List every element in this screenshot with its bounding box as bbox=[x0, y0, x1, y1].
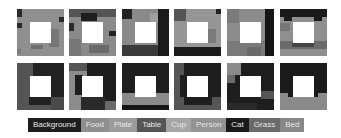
masked-center-square bbox=[187, 22, 208, 43]
mask-tile bbox=[227, 9, 274, 56]
mask-tile bbox=[174, 63, 221, 110]
mask-region bbox=[51, 77, 64, 97]
mask-region bbox=[122, 9, 132, 19]
mask-region bbox=[109, 31, 116, 36]
mask-region bbox=[51, 97, 64, 110]
mask-region bbox=[292, 43, 314, 47]
legend-item-cup: Cup bbox=[166, 118, 191, 132]
masked-center-square bbox=[135, 76, 156, 97]
mask-region bbox=[105, 101, 116, 110]
mask-region bbox=[184, 97, 212, 105]
mask-tile bbox=[69, 9, 116, 56]
mask-tile bbox=[280, 63, 327, 110]
legend-item-plate: Plate bbox=[109, 118, 137, 132]
mask-region bbox=[17, 49, 21, 54]
mask-region bbox=[69, 23, 74, 31]
mask-region bbox=[89, 45, 109, 53]
masked-center-square bbox=[293, 76, 314, 97]
mask-region bbox=[122, 105, 169, 110]
legend-item-cat: Cat bbox=[226, 118, 248, 132]
mask-region bbox=[208, 29, 216, 43]
mask-region bbox=[280, 9, 327, 17]
mask-region bbox=[261, 91, 274, 99]
mask-region bbox=[81, 97, 105, 110]
mask-tile bbox=[280, 9, 327, 56]
mask-region bbox=[227, 75, 235, 83]
mask-region bbox=[284, 17, 292, 21]
mask-tile bbox=[17, 9, 64, 56]
mask-tile bbox=[227, 63, 274, 110]
legend-item-background: Background bbox=[28, 118, 81, 132]
mask-region bbox=[265, 9, 274, 56]
legend-item-grass: Grass bbox=[249, 118, 280, 132]
mask-region bbox=[69, 63, 87, 71]
class-legend: Background Food Plate Table Cup Person C… bbox=[28, 118, 304, 132]
mask-region bbox=[122, 45, 158, 56]
mask-region bbox=[17, 23, 22, 28]
legend-item-person: Person bbox=[191, 118, 226, 132]
mask-region bbox=[174, 47, 221, 56]
mask-region bbox=[59, 17, 64, 22]
mask-region bbox=[216, 9, 221, 14]
mask-region bbox=[69, 39, 81, 56]
mask-grid bbox=[17, 9, 327, 111]
mask-region bbox=[227, 103, 257, 110]
masked-center-square bbox=[82, 22, 103, 43]
mask-region bbox=[81, 13, 97, 21]
mask-region bbox=[208, 73, 221, 97]
masked-center-square bbox=[82, 76, 103, 97]
mask-tile bbox=[122, 63, 169, 110]
legend-item-bed: Bed bbox=[280, 118, 304, 132]
mask-region bbox=[280, 93, 288, 97]
mask-region bbox=[247, 47, 261, 56]
masked-center-square bbox=[240, 76, 261, 97]
mask-region bbox=[174, 9, 186, 21]
mask-region bbox=[227, 9, 239, 23]
masked-center-square bbox=[30, 22, 51, 43]
mask-tile bbox=[174, 9, 221, 56]
legend-item-table: Table bbox=[137, 118, 166, 132]
mask-region bbox=[318, 93, 327, 97]
mask-region bbox=[33, 63, 64, 77]
masked-center-square bbox=[135, 22, 156, 43]
masked-center-square bbox=[240, 22, 261, 43]
mask-region bbox=[314, 17, 322, 21]
masked-center-square bbox=[293, 22, 314, 43]
mask-region bbox=[29, 97, 51, 105]
mask-region bbox=[158, 9, 169, 56]
mask-region bbox=[280, 97, 327, 110]
mask-region bbox=[227, 63, 241, 75]
masked-center-square bbox=[30, 76, 51, 97]
mask-region bbox=[280, 23, 290, 31]
mask-tile bbox=[69, 63, 116, 110]
mask-tile bbox=[122, 9, 169, 56]
mask-tile bbox=[17, 63, 64, 110]
masked-center-square bbox=[187, 76, 208, 97]
legend-item-food: Food bbox=[81, 118, 109, 132]
mask-region bbox=[17, 9, 22, 17]
mask-region bbox=[31, 45, 43, 49]
